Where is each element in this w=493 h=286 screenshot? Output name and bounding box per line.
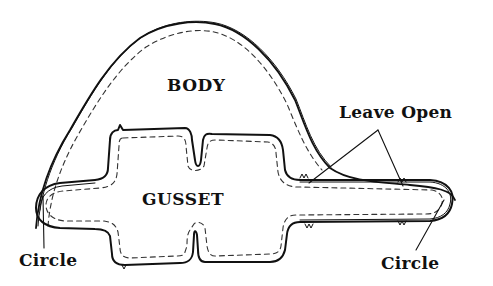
circle-right-label: Circle [381,255,439,272]
leave-open-label: Leave Open [339,104,452,121]
circle-left-label: Circle [19,252,77,269]
gusset-outline [36,125,453,265]
body-piece-label: BODY [167,77,225,94]
leader-lines [43,130,444,250]
circle-right-leader [416,200,444,250]
body-outline [36,21,455,228]
circle-left-leader [43,196,44,248]
pattern-diagram [0,0,493,286]
leave-open-leader-right [378,130,403,186]
gusset-stitch-line [46,136,442,258]
gusset-piece-label: GUSSET [142,191,224,208]
